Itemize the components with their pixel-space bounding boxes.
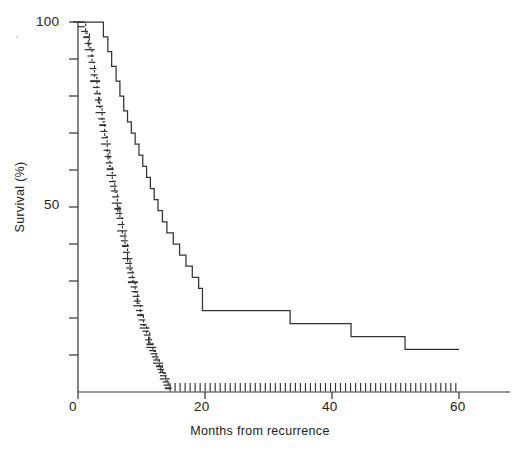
kaplan-meier-plot-canvas (0, 0, 520, 463)
y-tick-label-100: 100 (36, 14, 59, 29)
y-tick-label-50: 50 (44, 197, 59, 212)
survival-figure: 100 50 0 20 40 60 Months from recurrence… (0, 0, 520, 463)
survival-curve-primary (78, 22, 459, 349)
x-tick-label-0: 0 (69, 399, 77, 414)
x-tick-label-60: 60 (450, 399, 465, 414)
survival-curve-secondary (78, 22, 168, 388)
y-axis-ticks (69, 22, 78, 355)
x-tick-label-40: 40 (322, 399, 337, 414)
y-axis-title: Survival (%) (13, 142, 27, 252)
x-tick-label-20: 20 (194, 399, 209, 414)
censor-ticks-secondary-curve (73, 22, 172, 388)
censor-ticks-baseline (170, 383, 456, 392)
x-axis-ticks (78, 392, 459, 399)
x-axis-title: Months from recurrence (0, 424, 520, 438)
axis-lines (78, 22, 510, 393)
